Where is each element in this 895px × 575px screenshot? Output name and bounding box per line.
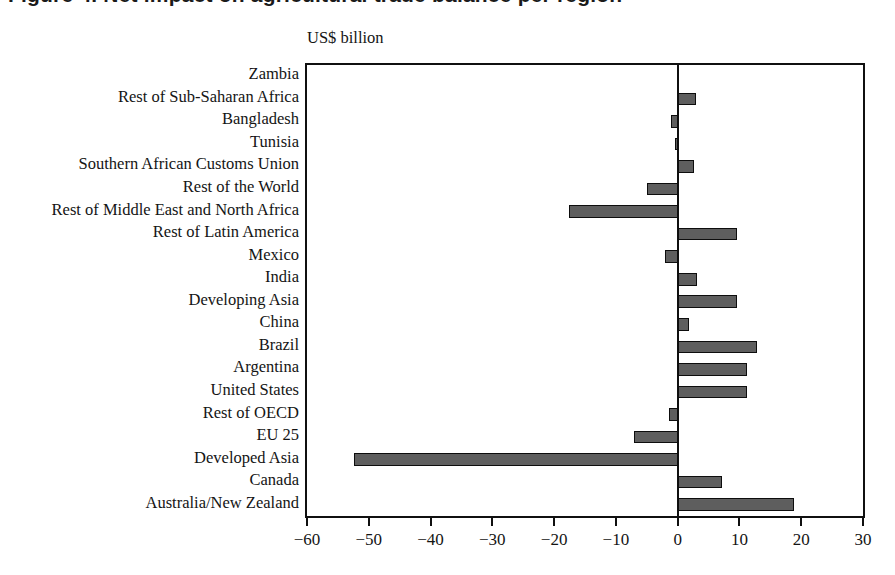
bar[interactable] xyxy=(678,273,697,286)
figure-title: Figure 4. Net impact on agricultural tra… xyxy=(8,0,622,7)
x-axis-tick xyxy=(306,518,308,526)
category-label: Developed Asia xyxy=(194,450,299,467)
bar[interactable] xyxy=(678,363,748,376)
bar-row xyxy=(307,205,863,218)
x-axis-tick-label: −50 xyxy=(355,530,382,550)
category-label: Rest of Middle East and North Africa xyxy=(52,202,299,219)
bar[interactable] xyxy=(678,386,748,399)
category-label: EU 25 xyxy=(256,427,299,444)
bar-row xyxy=(307,273,863,286)
category-label: India xyxy=(265,269,299,286)
x-axis-tick xyxy=(368,518,370,526)
plot-area xyxy=(307,65,863,516)
bar[interactable] xyxy=(665,250,678,263)
bar[interactable] xyxy=(634,431,678,444)
bar-row xyxy=(307,498,863,511)
bar-row xyxy=(307,93,863,106)
category-label: Bangladesh xyxy=(222,111,299,128)
x-axis-tick-label: 30 xyxy=(855,530,872,550)
bar[interactable] xyxy=(678,160,694,173)
category-label: Australia/New Zealand xyxy=(146,495,299,512)
x-axis-tick xyxy=(430,518,432,526)
category-label: Southern African Customs Union xyxy=(79,156,299,173)
category-label: Zambia xyxy=(249,66,299,83)
bar-row xyxy=(307,138,863,151)
x-axis-tick-label: −40 xyxy=(417,530,444,550)
category-label: Developing Asia xyxy=(189,292,299,309)
x-axis-tick xyxy=(738,518,740,526)
category-label: Rest of OECD xyxy=(203,405,299,422)
category-label: Argentina xyxy=(233,359,299,376)
x-axis-tick xyxy=(491,518,493,526)
bar[interactable] xyxy=(678,93,696,106)
bar-row xyxy=(307,250,863,263)
x-axis-tick xyxy=(615,518,617,526)
category-label: Rest of the World xyxy=(183,179,299,196)
x-axis-tick-label: 10 xyxy=(731,530,748,550)
bar-row xyxy=(307,408,863,421)
bar-row xyxy=(307,70,863,83)
bar[interactable] xyxy=(678,498,794,511)
bar-row xyxy=(307,318,863,331)
bar-row xyxy=(307,295,863,308)
bar-row xyxy=(307,386,863,399)
bar[interactable] xyxy=(647,183,678,196)
category-label: Canada xyxy=(250,472,299,489)
category-label: Rest of Latin America xyxy=(153,224,299,241)
bar-row xyxy=(307,341,863,354)
bar-row xyxy=(307,476,863,489)
category-label: Rest of Sub-Saharan Africa xyxy=(118,89,299,106)
bar-row xyxy=(307,183,863,196)
bar-row xyxy=(307,160,863,173)
bar[interactable] xyxy=(354,453,678,466)
x-axis-tick-label: −60 xyxy=(294,530,321,550)
x-axis-tick xyxy=(862,518,864,526)
x-axis-tick-label: −30 xyxy=(479,530,506,550)
x-axis-tick-label: −10 xyxy=(603,530,630,550)
x-axis-tick xyxy=(677,518,679,526)
x-axis-tick xyxy=(553,518,555,526)
category-label: China xyxy=(260,314,299,331)
bar[interactable] xyxy=(678,476,722,489)
bar[interactable] xyxy=(675,138,678,151)
bar[interactable] xyxy=(678,228,737,241)
category-axis-labels: ZambiaRest of Sub-Saharan AfricaBanglade… xyxy=(0,63,299,518)
category-label: Tunisia xyxy=(250,134,299,151)
bar[interactable] xyxy=(678,318,689,331)
bar[interactable] xyxy=(678,341,757,354)
bar[interactable] xyxy=(671,115,678,128)
category-label: United States xyxy=(211,382,299,399)
bar[interactable] xyxy=(569,205,678,218)
plot-frame xyxy=(305,63,865,518)
zero-reference-line xyxy=(677,65,679,516)
x-axis-tick-label: 20 xyxy=(793,530,810,550)
figure-title-strip: Figure 4. Net impact on agricultural tra… xyxy=(0,0,895,14)
category-label: Mexico xyxy=(249,247,299,264)
category-label: Brazil xyxy=(259,337,299,354)
x-axis-tick-label: −20 xyxy=(541,530,568,550)
bar-row xyxy=(307,115,863,128)
bar-row xyxy=(307,363,863,376)
bar[interactable] xyxy=(678,295,737,308)
bar-row xyxy=(307,228,863,241)
bar[interactable] xyxy=(669,408,678,421)
bar-row xyxy=(307,453,863,466)
x-axis-tick-label: 0 xyxy=(673,530,682,550)
x-axis-tick xyxy=(800,518,802,526)
bar-row xyxy=(307,431,863,444)
axis-unit-caption: US$ billion xyxy=(307,28,384,48)
